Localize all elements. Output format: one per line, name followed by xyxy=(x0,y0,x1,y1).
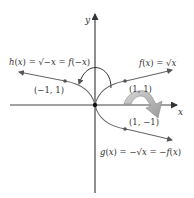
origin-point xyxy=(93,103,97,107)
label-f: f(x) = √x xyxy=(138,58,177,68)
label-h-point: (−1, 1) xyxy=(34,85,64,95)
point-h-neg1-1 xyxy=(63,79,67,83)
label-g: g(x) = −√x = −f(x) xyxy=(100,147,181,157)
reflect-x-axis-arrow xyxy=(124,91,162,118)
y-axis-label: y xyxy=(84,15,91,25)
point-f-1-1 xyxy=(123,79,127,83)
label-g-point: (1, −1) xyxy=(129,117,159,127)
point-g-1-neg1 xyxy=(123,127,127,131)
reflection-diagram: x y h(x) = √−x = f(−x) (−1, 1) f(x) = √x… xyxy=(0,0,194,198)
label-h: h(x) = √−x = f(−x) xyxy=(9,57,90,67)
x-axis-label: x xyxy=(178,107,183,117)
label-f-point: (1, 1) xyxy=(129,84,152,94)
